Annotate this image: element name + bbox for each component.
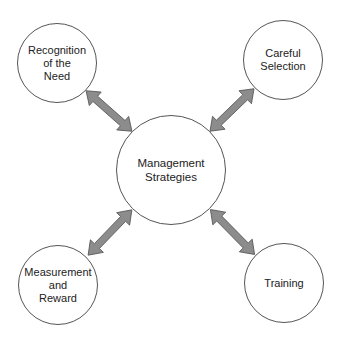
node-label: Careful Selection [256, 47, 309, 73]
double-arrow-icon [204, 82, 261, 137]
node-measurement-and-reward: Measurement and Reward [18, 245, 98, 325]
node-training: Training [244, 243, 324, 323]
node-recognition-of-the-need: Recognition of the Need [17, 23, 97, 103]
node-label: Recognition of the Need [24, 44, 90, 83]
node-label: Measurement and Reward [20, 266, 95, 305]
double-arrow-icon [204, 203, 261, 261]
node-label: Management Strategies [133, 156, 208, 184]
node-management-strategies: Management Strategies [116, 115, 226, 225]
double-arrow-icon [82, 204, 139, 262]
node-label: Training [260, 277, 307, 290]
strategy-diagram: Recognition of the Need Careful Selectio… [0, 0, 337, 339]
double-arrow-icon [80, 84, 138, 138]
node-careful-selection: Careful Selection [243, 20, 323, 100]
